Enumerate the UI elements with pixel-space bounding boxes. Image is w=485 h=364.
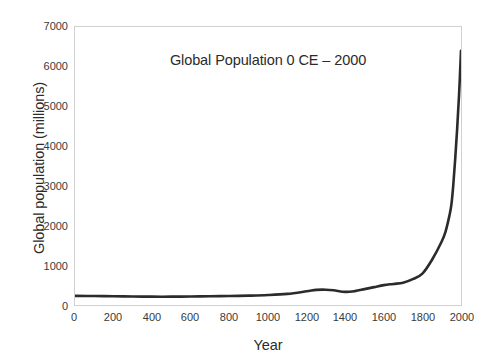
y-tick-label-3000: 3000: [28, 181, 68, 192]
y-tick-label-4000: 4000: [28, 141, 68, 152]
plot-area: [74, 26, 462, 306]
x-axis-title: Year: [74, 337, 462, 353]
chart-title: Global Population 0 CE – 2000: [74, 52, 462, 68]
y-tick-label-1000: 1000: [28, 261, 68, 272]
y-tick-label-6000: 6000: [28, 61, 68, 72]
population-line-series: [75, 51, 461, 297]
population-line-chart: [75, 27, 461, 305]
x-tick-label-2000: 2000: [439, 311, 485, 323]
y-tick-label-2000: 2000: [28, 221, 68, 232]
y-tick-label-5000: 5000: [28, 101, 68, 112]
y-tick-label-7000: 7000: [28, 21, 68, 32]
chart-figure: Global population (millions) 7000 6000 5…: [0, 0, 485, 364]
